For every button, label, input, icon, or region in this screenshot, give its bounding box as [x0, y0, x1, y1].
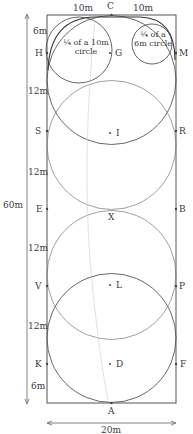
- letter-x: X: [108, 212, 114, 222]
- letter-a: A: [108, 406, 115, 416]
- length-label-60m: 60m: [3, 200, 23, 210]
- segment-label-12m-2: 12m: [28, 167, 48, 177]
- circle-20m-bottom: [47, 274, 176, 403]
- letter-b: B: [179, 204, 186, 214]
- letter-f: F: [180, 359, 186, 369]
- letter-c: C: [107, 1, 114, 11]
- segment-label-6m-bottom: 6m: [31, 381, 45, 391]
- segment-label-6m-top: 6m: [33, 26, 47, 36]
- circle-20m-l: [47, 211, 176, 340]
- letter-l: L: [116, 280, 122, 290]
- segment-label-12m-4: 12m: [28, 321, 48, 331]
- letter-p: P: [179, 281, 185, 291]
- segment-label-10m-left: 10m: [73, 3, 93, 13]
- letter-m: M: [179, 48, 188, 58]
- letter-i: I: [116, 128, 120, 138]
- circle-20m-i: [47, 81, 176, 210]
- segment-label-12m-3: 12m: [28, 243, 48, 253]
- arena-outline: [47, 15, 176, 403]
- letter-k: K: [35, 359, 42, 369]
- letter-r: R: [179, 126, 186, 136]
- dressage-arena-diagram: [0, 0, 193, 434]
- width-label-20m: 20m: [101, 425, 121, 434]
- letter-v: V: [35, 281, 42, 291]
- letter-g: G: [115, 48, 122, 58]
- letter-s: S: [35, 126, 41, 136]
- segment-label-12m-1: 12m: [28, 86, 48, 96]
- segment-label-10m-right: 10m: [133, 3, 153, 13]
- note-10m-circle: ¼ of a 10m circle: [58, 38, 114, 56]
- letter-h: H: [35, 48, 43, 58]
- letter-e: E: [36, 204, 43, 214]
- note-6m-circle: ¼ of a 6m circle: [131, 30, 175, 48]
- letter-d: D: [116, 359, 123, 369]
